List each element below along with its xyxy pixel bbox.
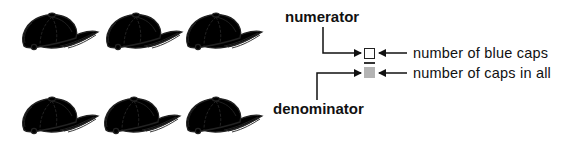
fraction-bar [364, 62, 375, 64]
numerator-label: numerator [285, 9, 359, 25]
numerator-pointer-line [323, 27, 361, 53]
denominator-label: denominator [273, 101, 364, 117]
numerator-box [364, 48, 375, 59]
denominator-description: number of caps in all [413, 65, 551, 81]
denominator-pointer-line [317, 73, 361, 100]
numerator-description: number of blue caps [413, 45, 548, 61]
denominator-box [364, 67, 375, 78]
